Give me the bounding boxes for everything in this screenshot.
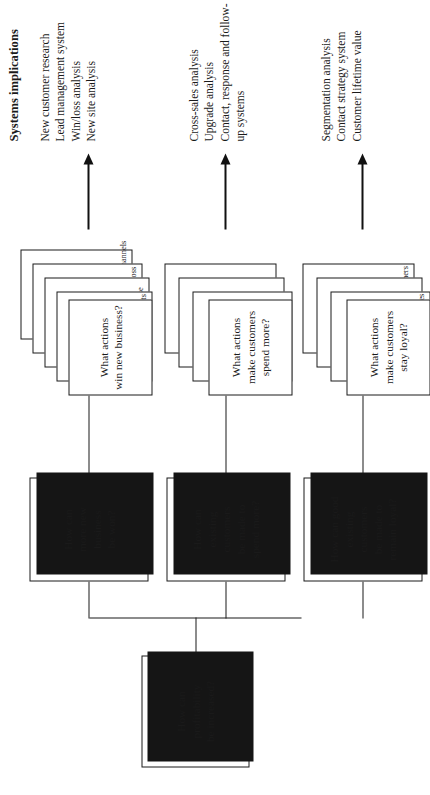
arrow-shaft [361,163,363,229]
branch-question-box-1[interactable]: How can existing customers be made to sp… [166,477,285,581]
arrow-head [83,153,93,164]
connector-branch-2 [362,581,363,618]
connector-stack-1 [225,395,226,477]
implications-list-2: Segmentation analysis Contact strategy s… [318,30,364,141]
connector-root-stem [195,617,196,655]
arrow-head [357,153,367,164]
action-card-stack-1: Maintain a dialogue Identify upgrades Id… [160,245,292,395]
arrow-shaft [224,163,226,229]
branch-question-label-2: How can good existing customers be made … [326,492,398,566]
action-card-label-1: What actions make customers spend more? [228,310,271,383]
implications-list-0: New customer research Lead management sy… [37,22,99,141]
action-card-stack-2: Identify good customers Maintain a dialo… [298,245,430,395]
branch-question-box-0[interactable]: How can more new business be won? [29,477,148,581]
action-card-front-0[interactable]: What actions win new business? [68,299,152,395]
connector-branch-0 [88,581,89,618]
root-question-label: How can profitability be increased? [173,676,216,745]
arrow-head [220,153,230,164]
connector-stack-2 [362,395,363,477]
connector-trunk [89,617,301,618]
action-card-label-2: What actions make customers stay loyal? [366,310,409,383]
action-card-front-1[interactable]: What actions make customers spend more? [208,299,292,395]
implications-list-1: Cross-sales analysis Upgrade analysis Co… [186,0,248,141]
branch-question-box-2[interactable]: How can good existing customers be made … [303,477,422,581]
root-question-box[interactable]: How can profitability be increased? [141,655,249,767]
branch-question-label-0: How can more new business be won? [60,503,118,556]
connector-branch-1 [225,581,226,618]
connector-stack-0 [88,395,89,477]
action-card-stack-0: Identify good new channels Identify reas… [20,245,152,395]
action-card-label-0: What actions win new business? [96,305,125,390]
action-card-front-2[interactable]: What actions make customers stay loyal? [346,299,430,395]
implications-heading: Systems implications [6,29,21,141]
arrow-shaft [87,163,89,229]
branch-question-label-1: How can existing customers be made to sp… [189,496,261,561]
